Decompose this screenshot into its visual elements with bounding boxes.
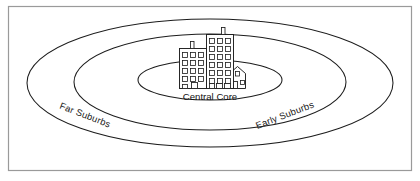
- center-tower-window: [218, 79, 223, 84]
- center-tower-window: [226, 63, 231, 68]
- left-midrise-window: [183, 69, 188, 74]
- left-midrise-window: [199, 69, 204, 74]
- left-midrise-window: [183, 61, 188, 66]
- zone-label-central-core: Central Core: [183, 91, 237, 102]
- center-tower-mast: [222, 28, 226, 35]
- left-midrise-window: [191, 61, 196, 66]
- center-tower-window: [210, 63, 215, 68]
- left-midrise-window: [191, 77, 196, 82]
- center-tower-window: [210, 39, 215, 44]
- building-left-midrise: [180, 42, 207, 89]
- right-house-window-attic: [236, 72, 240, 77]
- center-tower-window: [218, 39, 223, 44]
- center-tower-window: [210, 47, 215, 52]
- center-tower-window: [210, 55, 215, 60]
- left-midrise-window: [191, 53, 196, 58]
- center-tower-window: [226, 39, 231, 44]
- left-midrise-window: [199, 53, 204, 58]
- left-midrise-window: [183, 77, 188, 82]
- center-tower-window: [226, 79, 231, 84]
- center-tower-window: [218, 55, 223, 60]
- center-tower-window: [218, 47, 223, 52]
- concentric-zone-diagram: Central Core Early Suburbs Far Suburbs: [0, 0, 420, 181]
- right-house-window-upper: [241, 81, 245, 85]
- center-tower-door: [210, 84, 215, 89]
- center-tower-window: [210, 79, 215, 84]
- center-tower-window: [210, 71, 215, 76]
- left-midrise-window: [199, 61, 204, 66]
- center-tower-window: [226, 71, 231, 76]
- center-tower-window: [218, 63, 223, 68]
- left-midrise-window: [199, 77, 204, 82]
- left-midrise-door: [192, 83, 198, 89]
- center-tower-window: [226, 47, 231, 52]
- center-tower-window: [218, 71, 223, 76]
- figure-root: Central Core Early Suburbs Far Suburbs: [0, 0, 420, 181]
- center-tower-door: [225, 84, 231, 89]
- left-midrise-window: [191, 69, 196, 74]
- center-tower-door: [217, 84, 223, 89]
- left-midrise-mast: [191, 42, 195, 49]
- left-midrise-window: [183, 85, 188, 89]
- left-midrise-window: [183, 53, 188, 58]
- center-tower-window: [226, 55, 231, 60]
- building-center-tower: [207, 28, 234, 89]
